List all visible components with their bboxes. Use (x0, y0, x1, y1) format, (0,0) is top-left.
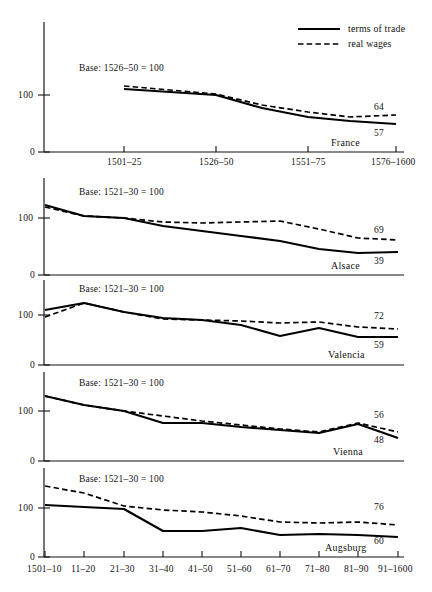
figure-svg: terms of trade real wages 100 0 1501–25 … (0, 0, 432, 592)
alsace-region-label: Alsace (331, 260, 360, 271)
france-ylabel-100: 100 (18, 90, 33, 100)
vienna-base-note: Base: 1521–30 = 100 (79, 378, 164, 388)
valencia-endlabel-terms-of-trade: 59 (374, 340, 384, 350)
augsburg-xlabel-6: 51–60 (227, 564, 252, 574)
alsace-base-note: Base: 1521–30 = 100 (79, 187, 164, 197)
legend-label-terms-of-trade: terms of trade (348, 23, 406, 34)
augsburg-xlabel-9: 81–90 (344, 564, 369, 574)
france-region-label: France (331, 137, 360, 148)
alsace-series-real-wages (45, 207, 398, 240)
panel-augsburg: 100 0 Base: 1521–30 = 100 76 60 Augsburg… (18, 468, 413, 574)
vienna-ylabel-100: 100 (18, 406, 33, 416)
augsburg-series-real-wages (45, 486, 398, 525)
augsburg-xlabel-1: 1501–10 (27, 564, 62, 574)
alsace-series-terms-of-trade (45, 205, 398, 253)
augsburg-xlabel-4: 31–40 (149, 564, 174, 574)
france-base-note: Base: 1526–50 = 100 (79, 63, 164, 73)
augsburg-base-note: Base: 1521–30 = 100 (79, 474, 164, 484)
augsburg-xlabel-7: 61–70 (266, 564, 291, 574)
augsburg-xlabel-3: 21–30 (110, 564, 135, 574)
valencia-base-note: Base: 1521–30 = 100 (79, 284, 164, 294)
vienna-ylabel-0: 0 (30, 456, 35, 466)
augsburg-endlabel-real-wages: 76 (374, 502, 384, 512)
vienna-endlabel-terms-of-trade: 48 (374, 435, 384, 445)
panel-vienna: 100 0 Base: 1521–30 = 100 56 48 Vienna (18, 372, 404, 466)
augsburg-endlabel-terms-of-trade: 60 (374, 536, 384, 546)
vienna-region-label: Vienna (333, 446, 363, 457)
augsburg-xlabel-5: 41–50 (188, 564, 213, 574)
france-xlabel-2: 1526–50 (199, 157, 234, 167)
france-ylabel-0: 0 (30, 147, 35, 157)
alsace-ylabel-0: 0 (30, 270, 35, 280)
augsburg-ylabel-100: 100 (18, 503, 33, 513)
france-xlabel-3: 1551–75 (291, 157, 326, 167)
augsburg-xlabel-10: 91–1600 (378, 564, 413, 574)
alsace-endlabel-terms-of-trade: 39 (374, 256, 384, 266)
panel-valencia: 100 0 Base: 1521–30 = 100 72 59 Valencia (18, 280, 404, 370)
panel-alsace: 100 0 Base: 1521–30 = 100 69 39 Alsace (18, 178, 404, 280)
vienna-endlabel-real-wages: 56 (374, 410, 384, 420)
legend: terms of trade real wages (298, 23, 406, 49)
vienna-series-terms-of-trade (45, 396, 398, 438)
augsburg-xlabel-8: 71–80 (305, 564, 330, 574)
augsburg-ylabel-0: 0 (30, 552, 35, 562)
augsburg-xlabel-2: 11–20 (71, 564, 95, 574)
legend-label-real-wages: real wages (348, 38, 392, 49)
france-xlabel-4: 1576–1600 (371, 157, 416, 167)
valencia-ylabel-0: 0 (30, 360, 35, 370)
france-endlabel-real-wages: 64 (374, 102, 384, 112)
augsburg-series-terms-of-trade (45, 505, 398, 537)
france-series-terms-of-trade (124, 89, 396, 124)
terms-of-trade-real-wages-figure: terms of trade real wages 100 0 1501–25 … (0, 0, 432, 592)
valencia-series-terms-of-trade (45, 303, 398, 337)
alsace-endlabel-real-wages: 69 (374, 225, 384, 235)
valencia-region-label: Valencia (328, 349, 365, 360)
france-xlabel-1: 1501–25 (107, 157, 142, 167)
france-endlabel-terms-of-trade: 57 (374, 128, 384, 138)
valencia-ylabel-100: 100 (18, 310, 33, 320)
alsace-ylabel-100: 100 (18, 213, 33, 223)
valencia-endlabel-real-wages: 72 (374, 311, 384, 321)
augsburg-region-label: Augsburg (325, 542, 367, 553)
